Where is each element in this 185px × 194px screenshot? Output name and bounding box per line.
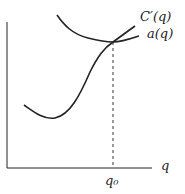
marginal-cost-label: C′(q): [140, 9, 171, 24]
average-cost-label: a(q): [147, 26, 173, 41]
x-axis-label: q: [161, 158, 169, 173]
q0-tick-label: q₀: [105, 173, 119, 188]
marginal-cost-curve: [24, 26, 135, 118]
cost-curves-diagram: C′(q) a(q) q q₀: [0, 0, 185, 194]
average-cost-curve: [57, 15, 139, 42]
